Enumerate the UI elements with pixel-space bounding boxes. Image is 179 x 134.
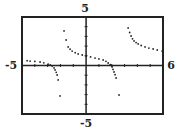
- data-point: [85, 55, 87, 57]
- data-point: [43, 62, 45, 64]
- data-point: [109, 64, 111, 66]
- data-point: [129, 32, 131, 34]
- ymax-label: 5: [81, 2, 89, 15]
- data-point: [112, 68, 114, 70]
- data-point: [90, 56, 92, 58]
- data-point: [130, 35, 132, 37]
- data-point: [65, 39, 67, 41]
- data-point: [118, 94, 120, 96]
- data-point: [135, 42, 137, 44]
- data-point: [56, 74, 58, 76]
- data-point: [111, 66, 113, 68]
- graph-window: 5 -5 -5 6: [0, 0, 179, 134]
- data-point: [156, 49, 158, 51]
- data-point: [47, 63, 49, 65]
- data-point: [140, 45, 142, 47]
- axes: [22, 17, 163, 114]
- data-point: [69, 48, 71, 50]
- data-point: [59, 95, 61, 97]
- data-point: [115, 77, 117, 79]
- data-point: [49, 64, 51, 66]
- data-point: [34, 61, 36, 63]
- ymin-label: -5: [80, 117, 92, 130]
- data-point: [107, 62, 109, 64]
- data-point: [144, 46, 146, 48]
- data-point: [152, 48, 154, 50]
- data-point: [132, 38, 134, 40]
- data-point: [161, 50, 163, 52]
- series-branch-right: [127, 27, 163, 52]
- data-point: [57, 79, 59, 81]
- data-point: [148, 47, 150, 49]
- series-branch-left: [21, 59, 61, 97]
- data-point: [94, 57, 96, 59]
- data-point: [29, 60, 31, 62]
- data-point: [74, 52, 76, 54]
- data-point: [127, 27, 129, 29]
- data-point: [102, 59, 104, 61]
- data-point: [133, 40, 135, 42]
- data-point: [105, 60, 107, 62]
- data-point: [77, 53, 79, 55]
- xmin-label: -5: [5, 59, 17, 72]
- data-point: [21, 59, 23, 61]
- xmax-label: 6: [167, 59, 175, 72]
- series-branch-middle: [63, 30, 120, 96]
- data-point: [54, 69, 56, 71]
- data-point: [39, 61, 41, 63]
- data-point: [67, 46, 69, 48]
- data-point: [137, 43, 139, 45]
- data-point: [53, 67, 55, 69]
- data-point: [71, 50, 73, 52]
- data-point: [51, 65, 53, 67]
- data-point: [63, 30, 65, 32]
- data-point: [81, 54, 83, 56]
- data-points: [21, 27, 163, 97]
- data-point: [55, 71, 57, 73]
- data-point: [114, 74, 116, 76]
- data-point: [98, 58, 100, 60]
- data-point: [26, 60, 28, 62]
- data-point: [113, 71, 115, 73]
